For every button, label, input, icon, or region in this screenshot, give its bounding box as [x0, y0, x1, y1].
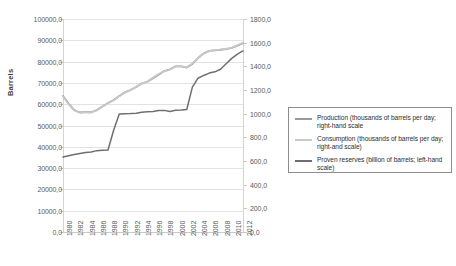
y-axis-right-tick-label: 600,0	[250, 158, 267, 165]
y-axis-right-tick	[244, 208, 247, 209]
y-axis-left-tick-label: 20000,0	[37, 186, 62, 193]
y-axis-left-tick-label: 90000,0	[37, 37, 62, 44]
legend-item-label: Consumption (thousands of barrels per da…	[317, 135, 446, 152]
y-axis-right-tick-label: 1600,0	[250, 39, 271, 46]
legend-item[interactable]: Production (thousands of barrels per day…	[295, 114, 446, 131]
legend-item[interactable]: Proven reserves (billion of barrels; lef…	[295, 156, 446, 173]
y-axis-right-tick-label: 1800,0	[250, 16, 271, 23]
y-axis-right-tick	[244, 66, 247, 67]
y-axis-right-tick-label: 1000,0	[250, 110, 271, 117]
y-axis-right-tick-label: 800,0	[250, 134, 267, 141]
y-axis-left-tick-label: 100000,0	[34, 16, 62, 23]
y-axis-left-tick-label: 30000,0	[37, 165, 62, 172]
y-axis-left-tick-label: 10000,0	[37, 207, 62, 214]
y-axis-title-wrapper: Barrels	[4, 0, 20, 266]
x-axis-tick-label: 2012	[246, 221, 253, 236]
y-axis-right-tick-label: 1200,0	[250, 87, 271, 94]
y-axis-right-tick-label: 400,0	[250, 181, 267, 188]
y-axis-right-tick	[244, 90, 247, 91]
chart-container: Barrels 0,010000,020000,030000,040000,05…	[0, 0, 456, 266]
y-axis-right-tick-label: 200,0	[250, 205, 267, 212]
y-axis-right-tick	[244, 114, 247, 115]
legend-swatch-line-icon	[295, 139, 312, 141]
y-axis-right-tick	[244, 43, 247, 44]
y-axis-right-tick	[244, 161, 247, 162]
y-axis-left-tick-label: 40000,0	[37, 143, 62, 150]
y-axis-right-tick	[244, 19, 247, 20]
y-axis-left-tick-label: 70000,0	[37, 79, 62, 86]
y-axis-right-tick	[244, 137, 247, 138]
chart-legend: Production (thousands of barrels per day…	[288, 107, 452, 173]
y-axis-right-tick	[244, 185, 247, 186]
y-axis-right-tick-label: 1400,0	[250, 63, 271, 70]
legend-item[interactable]: Consumption (thousands of barrels per da…	[295, 135, 446, 152]
y-axis-left-tick-label: 50000,0	[37, 122, 62, 129]
series-line-2	[63, 43, 243, 113]
y-axis-left-tick-label: 80000,0	[37, 58, 62, 65]
y-axis-title: Barrels	[6, 36, 15, 96]
y-axis-left-tick-label: 0,0	[53, 229, 62, 236]
legend-swatch-line-icon	[295, 118, 312, 120]
series-line-3	[63, 51, 243, 157]
legend-item-label: Proven reserves (billion of barrels; lef…	[317, 156, 446, 173]
plot-area	[63, 19, 243, 232]
legend-item-label: Production (thousands of barrels per day…	[317, 114, 446, 131]
y-axis-left-tick-label: 60000,0	[37, 101, 62, 108]
legend-swatch-line-icon	[295, 160, 312, 162]
